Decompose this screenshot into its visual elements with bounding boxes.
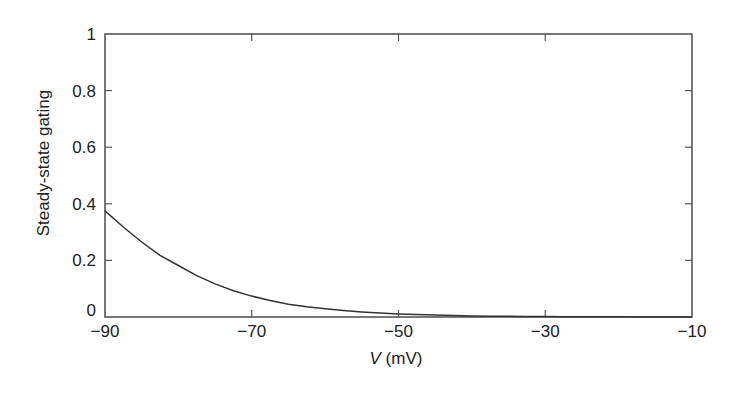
y-tick-label: 0.4 [72, 195, 96, 214]
x-axis-label: V (mV) [370, 349, 423, 368]
y-tick-label: 0.2 [72, 251, 96, 270]
data-series-line [105, 211, 692, 317]
x-axis-ticks: −90−70−50−30−10 [91, 34, 707, 341]
y-tick-label: 0.8 [72, 82, 96, 101]
plot-frame [105, 34, 692, 317]
y-axis-label: Steady-state gating [34, 90, 53, 236]
x-tick-label: −90 [91, 322, 120, 341]
x-axis-unit: (mV) [381, 349, 423, 368]
y-axis-ticks: 00.20.40.60.81 [72, 25, 692, 320]
x-tick-label: −10 [678, 322, 707, 341]
x-tick-label: −50 [384, 322, 413, 341]
y-tick-label: 1 [87, 25, 96, 44]
y-tick-label: 0.6 [72, 138, 96, 157]
steady-state-gating-chart: −90−70−50−30−10 00.20.40.60.81 V (mV) St… [0, 0, 731, 393]
x-tick-label: −30 [531, 322, 560, 341]
y-tick-label: 0 [87, 301, 96, 320]
x-tick-label: −70 [237, 322, 266, 341]
